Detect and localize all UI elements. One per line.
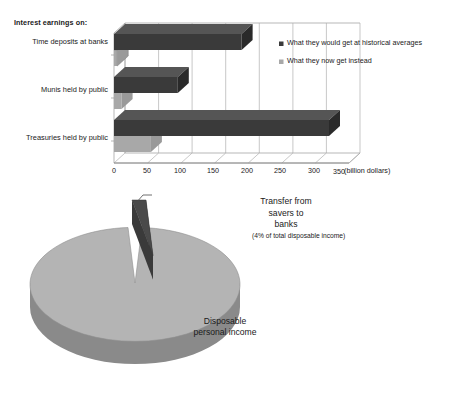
bar-munis-historical bbox=[114, 67, 189, 93]
x-tick-0: 0 bbox=[106, 166, 122, 175]
x-tick-200: 200 bbox=[237, 166, 257, 175]
x-tick-250: 250 bbox=[270, 166, 290, 175]
bar-treasuries-historical bbox=[114, 110, 340, 136]
category-label-treasuries: Treasuries held by public bbox=[0, 133, 108, 142]
bar-time-deposits-historical bbox=[114, 24, 253, 50]
x-axis-unit-label: (billion dollars) bbox=[344, 166, 390, 175]
pie-callout-line2: savers to bbox=[238, 208, 334, 220]
x-tick-300: 300 bbox=[304, 166, 324, 175]
pie-chart-graphic bbox=[0, 190, 461, 408]
pie-callout-line3: banks bbox=[238, 219, 334, 231]
bar-chart-title: Interest earnings on: bbox=[14, 18, 87, 27]
bar-chart-graphic bbox=[0, 0, 461, 190]
pie-center-line1: Disposable bbox=[150, 316, 300, 327]
pie-callout-line1: Transfer from bbox=[238, 196, 334, 208]
x-tick-100: 100 bbox=[170, 166, 190, 175]
category-label-munis: Munis held by public bbox=[0, 85, 108, 94]
legend-marker-now bbox=[279, 60, 284, 65]
legend-label-historical: What they would get at historical averag… bbox=[287, 38, 422, 47]
legend-label-now: What they now get instead bbox=[287, 56, 372, 65]
pie-callout-label: Transfer from savers to banks bbox=[238, 196, 334, 231]
y-axis-ticks bbox=[111, 55, 114, 141]
legend-marker-historical bbox=[279, 42, 284, 47]
pie-center-line2: personal income bbox=[150, 327, 300, 338]
figure-container: Interest earnings on: Time deposits at b… bbox=[0, 0, 461, 408]
pie-callout-note: (4% of total disposable income) bbox=[252, 232, 345, 239]
x-tick-150: 150 bbox=[203, 166, 223, 175]
category-label-time-deposits: Time deposits at banks bbox=[0, 37, 108, 46]
pie-center-label: Disposable personal income bbox=[150, 316, 300, 338]
x-tick-50: 50 bbox=[138, 166, 156, 175]
